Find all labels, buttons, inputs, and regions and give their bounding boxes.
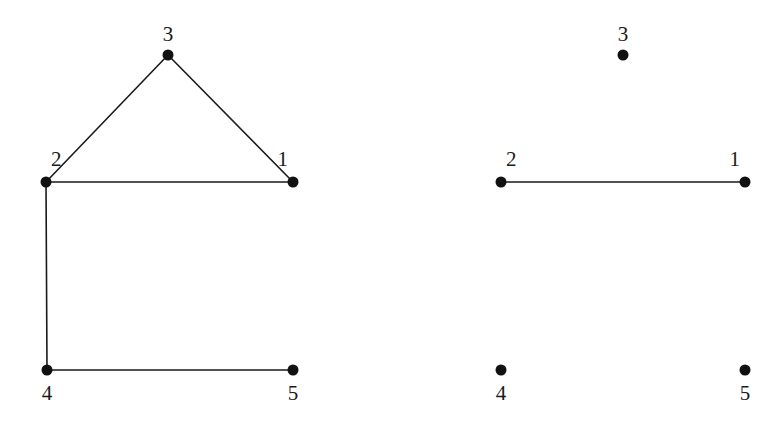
- graph-vertex-label-1: 1: [730, 147, 741, 171]
- graph-vertex-1[interactable]: [740, 177, 751, 188]
- graph-vertex-label-4: 4: [496, 381, 507, 405]
- graph-vertex-label-3: 3: [163, 22, 174, 46]
- right-graph: 12345: [496, 22, 751, 405]
- left-graph: 12345: [41, 22, 299, 405]
- graph-vertex-label-5: 5: [288, 381, 299, 405]
- graph-vertex-label-2: 2: [51, 147, 62, 171]
- graph-vertex-2[interactable]: [496, 177, 507, 188]
- graph-canvas: 1234512345: [0, 0, 782, 424]
- graph-vertex-label-1: 1: [278, 147, 289, 171]
- graph-vertex-label-3: 3: [618, 22, 629, 46]
- graph-vertex-label-5: 5: [740, 381, 751, 405]
- graph-edge-3-1: [168, 55, 293, 182]
- graph-vertex-3[interactable]: [163, 50, 174, 61]
- graph-vertex-label-2: 2: [506, 147, 517, 171]
- graph-vertex-label-4: 4: [42, 381, 53, 405]
- graph-vertex-1[interactable]: [288, 177, 299, 188]
- graph-vertex-5[interactable]: [288, 365, 299, 376]
- graph-vertex-3[interactable]: [618, 50, 629, 61]
- graph-vertex-2[interactable]: [41, 177, 52, 188]
- graph-vertex-4[interactable]: [42, 365, 53, 376]
- graph-vertex-5[interactable]: [740, 365, 751, 376]
- graph-vertex-4[interactable]: [496, 365, 507, 376]
- graph-edge-2-4: [46, 182, 47, 370]
- graph-figure: 1234512345: [0, 0, 782, 424]
- graph-edge-2-3: [46, 55, 168, 182]
